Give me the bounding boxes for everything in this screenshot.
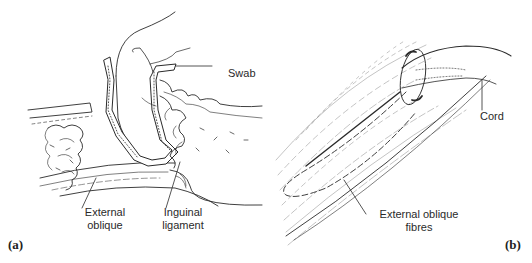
label-external-oblique: External oblique: [70, 206, 140, 232]
label-cord: Cord: [480, 110, 504, 123]
label-external-oblique-fibres-line1: External oblique: [380, 208, 459, 220]
label-inguinal-ligament-line2: ligament: [162, 219, 204, 231]
label-external-oblique-fibres: External oblique fibres: [364, 208, 474, 234]
label-swab: Swab: [228, 67, 256, 80]
anatomical-figure: Swab External oblique Inguinal ligament …: [0, 0, 532, 263]
panel-b-tag: (b): [505, 237, 521, 253]
panel-a-tag: (a): [8, 237, 23, 253]
label-external-oblique-line2: oblique: [87, 219, 122, 231]
label-external-oblique-line1: External: [85, 206, 125, 218]
label-inguinal-ligament-line1: Inguinal: [164, 206, 203, 218]
label-inguinal-ligament: Inguinal ligament: [148, 206, 218, 232]
label-external-oblique-fibres-line2: fibres: [406, 221, 433, 233]
